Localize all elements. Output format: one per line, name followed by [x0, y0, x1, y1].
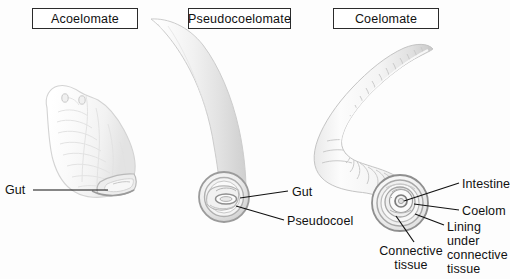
label-intestine: Intestine	[462, 177, 510, 191]
panel-title-coelomate-label: Coelomate	[355, 12, 417, 26]
illustration-layer	[0, 0, 510, 279]
anatomy-figure: Acoelomate Pseudocoelomate Coelomate Gut…	[0, 0, 510, 279]
flatworm-illustration	[46, 85, 136, 197]
panel-title-acoelomate-label: Acoelomate	[51, 12, 119, 26]
roundworm-illustration	[151, 19, 249, 222]
label-lining-under-connective-tissue: Lining under connective tissue	[447, 220, 509, 276]
panel-title-acoelomate: Acoelomate	[32, 8, 138, 29]
label-gut-pseudocoelomate: Gut	[292, 185, 312, 199]
label-gut-acoelomate: Gut	[5, 183, 25, 197]
panel-title-pseudocoelomate-label: Pseudocoelomate	[188, 12, 291, 26]
label-pseudocoel: Pseudocoel	[287, 214, 353, 228]
panel-title-coelomate: Coelomate	[333, 8, 439, 29]
label-connective-tissue: Connective tissue	[373, 244, 449, 272]
roundworm-cut-end	[199, 172, 249, 222]
label-coelom: Coelom	[462, 204, 506, 218]
panel-title-pseudocoelomate: Pseudocoelomate	[188, 8, 291, 29]
earthworm-illustration	[314, 44, 433, 231]
